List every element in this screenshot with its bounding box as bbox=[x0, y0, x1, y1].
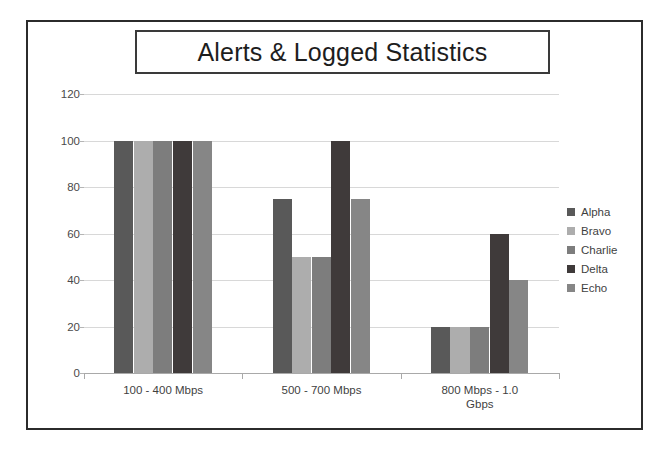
y-axis-tick-label: 60 bbox=[40, 228, 80, 240]
x-axis-category-label-line: Gbps bbox=[401, 397, 559, 411]
y-axis-tick-label: 80 bbox=[40, 181, 80, 193]
bar-echo-1 bbox=[351, 199, 370, 373]
legend-swatch-icon bbox=[567, 208, 575, 216]
bar-alpha-1 bbox=[273, 199, 292, 373]
x-axis-tick-mark bbox=[242, 373, 243, 379]
plot-area bbox=[84, 94, 559, 373]
y-axis-tick-label: 40 bbox=[40, 274, 80, 286]
bar-delta-1 bbox=[331, 141, 350, 374]
bar-charlie-0 bbox=[153, 141, 172, 374]
legend-label: Echo bbox=[581, 282, 607, 294]
legend-swatch-icon bbox=[567, 246, 575, 254]
legend-item-alpha[interactable]: Alpha bbox=[567, 202, 639, 221]
x-axis-category-label-line: 800 Mbps - 1.0 bbox=[401, 383, 559, 397]
legend-item-echo[interactable]: Echo bbox=[567, 278, 639, 297]
x-axis-category-label: 100 - 400 Mbps bbox=[84, 383, 242, 397]
y-axis-tick-label: 0 bbox=[40, 367, 80, 379]
x-axis-category-label-line: 500 - 700 Mbps bbox=[242, 383, 400, 397]
bar-bravo-1 bbox=[292, 257, 311, 373]
bar-group bbox=[273, 94, 371, 373]
y-axis-tick-label: 120 bbox=[40, 88, 80, 100]
bar-bravo-0 bbox=[134, 141, 153, 374]
bar-delta-0 bbox=[173, 141, 192, 374]
chart-title: Alerts & Logged Statistics bbox=[197, 38, 487, 67]
bar-echo-2 bbox=[509, 280, 528, 373]
y-axis-tick-label: 20 bbox=[40, 321, 80, 333]
chart-title-box: Alerts & Logged Statistics bbox=[135, 30, 550, 74]
legend-label: Bravo bbox=[581, 225, 611, 237]
y-axis-tick-label: 100 bbox=[40, 135, 80, 147]
bar-delta-2 bbox=[490, 234, 509, 374]
bars-layer bbox=[84, 94, 559, 373]
bar-alpha-2 bbox=[431, 327, 450, 374]
x-axis-tick-mark bbox=[84, 373, 85, 379]
x-axis-tick-mark bbox=[401, 373, 402, 379]
legend-item-charlie[interactable]: Charlie bbox=[567, 240, 639, 259]
chart-legend: AlphaBravoCharlieDeltaEcho bbox=[567, 202, 639, 297]
bar-group bbox=[431, 94, 529, 373]
legend-item-bravo[interactable]: Bravo bbox=[567, 221, 639, 240]
legend-label: Alpha bbox=[581, 206, 610, 218]
bar-charlie-2 bbox=[470, 327, 489, 374]
legend-item-delta[interactable]: Delta bbox=[567, 259, 639, 278]
bar-alpha-0 bbox=[114, 141, 133, 374]
legend-swatch-icon bbox=[567, 265, 575, 273]
x-axis-category-label: 500 - 700 Mbps bbox=[242, 383, 400, 397]
bar-group bbox=[114, 94, 212, 373]
y-axis-tick-labels: 020406080100120 bbox=[36, 94, 80, 373]
legend-swatch-icon bbox=[567, 227, 575, 235]
bar-echo-0 bbox=[193, 141, 212, 374]
x-axis-line bbox=[84, 373, 559, 374]
x-axis-category-label: 800 Mbps - 1.0Gbps bbox=[401, 383, 559, 411]
chart-frame: Alerts & Logged Statistics 0204060801001… bbox=[26, 20, 643, 430]
bar-bravo-2 bbox=[450, 327, 469, 374]
bar-charlie-1 bbox=[312, 257, 331, 373]
legend-label: Charlie bbox=[581, 244, 617, 256]
legend-swatch-icon bbox=[567, 284, 575, 292]
x-axis-category-label-line: 100 - 400 Mbps bbox=[84, 383, 242, 397]
legend-label: Delta bbox=[581, 263, 608, 275]
x-axis-tick-mark bbox=[559, 373, 560, 379]
